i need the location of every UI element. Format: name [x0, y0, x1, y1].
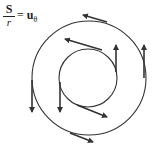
arrow-inner-top: [65, 39, 102, 50]
concentric-circles-diagram: [0, 0, 157, 151]
outer-circle: [32, 21, 146, 135]
velocity-arrows: [32, 15, 144, 142]
inner-circle: [59, 49, 117, 107]
